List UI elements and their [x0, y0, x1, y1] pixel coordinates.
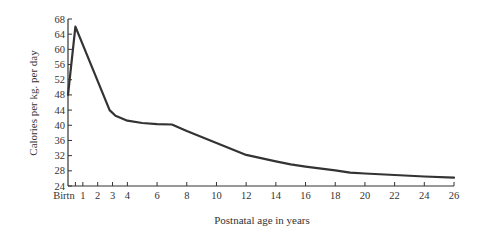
y-tick-label: 48 [55, 89, 66, 100]
y-tick-label: 60 [55, 44, 66, 55]
x-tick-label: 18 [330, 190, 341, 201]
x-tick-label: 22 [389, 190, 400, 201]
y-tick-label: 32 [55, 150, 66, 161]
y-tick-label: 44 [55, 105, 66, 116]
x-tick-label: 2 [95, 190, 100, 201]
x-tick-label: 16 [300, 190, 311, 201]
x-tick-label: 4 [125, 190, 131, 201]
x-tick-label: 6 [154, 190, 159, 201]
y-tick-label: 40 [55, 120, 66, 131]
y-tick-label: 28 [55, 165, 66, 176]
calorie-intake-line-chart: 242832364044485256606468 Birtn1234681012… [0, 0, 481, 238]
y-tick-label: 64 [55, 29, 66, 40]
x-axis: Birtn123468101214161820222426 [53, 182, 459, 201]
x-tick-label: 10 [211, 190, 222, 201]
x-tick-label: 3 [110, 190, 115, 201]
x-tick-label: 26 [449, 190, 460, 201]
y-tick-label: 56 [55, 59, 66, 70]
y-tick-label: 36 [55, 135, 66, 146]
x-tick-label: 12 [241, 190, 252, 201]
x-tick-label: 14 [271, 190, 282, 201]
x-tick-label: 24 [419, 190, 430, 201]
y-tick-label: 52 [55, 74, 66, 85]
calorie-curve-line [68, 27, 454, 178]
y-axis-title: Calories per kg. per day [27, 50, 39, 156]
x-tick-label: 8 [184, 190, 189, 201]
x-axis-title: Postnatal age in years [214, 214, 310, 226]
x-tick-label: Birtn [53, 190, 75, 201]
y-axis: 242832364044485256606468 [55, 14, 73, 192]
x-tick-label: 20 [360, 190, 371, 201]
y-tick-label: 68 [55, 14, 66, 25]
x-tick-label: 1 [80, 190, 85, 201]
